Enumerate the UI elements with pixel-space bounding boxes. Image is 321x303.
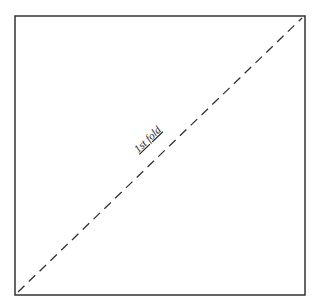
- fold-label: 1st fold: [131, 123, 163, 155]
- fold-line: [18, 18, 302, 292]
- paper-fold-diagram: 1st fold: [0, 0, 321, 303]
